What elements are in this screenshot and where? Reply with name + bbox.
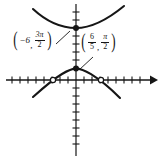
- lower-vertex-point: [73, 66, 79, 72]
- label-right-x-fraction: 6 5: [87, 33, 97, 51]
- label-left-y-numerator: 3π: [35, 31, 45, 39]
- label-left-y-denominator: 2: [37, 41, 43, 49]
- label-left-comma: ,: [30, 41, 33, 50]
- label-left-x-value: −6: [19, 36, 30, 45]
- label-left-y-fraction: 3π 2: [34, 31, 46, 49]
- label-left-close-paren: ): [47, 31, 51, 49]
- label-right-y-fraction: π 2: [100, 33, 110, 51]
- point-label-right: ( 6 5 , π 2 ): [80, 33, 117, 51]
- leader-line-right: [79, 57, 93, 70]
- point-label-left: ( −6 , 3π 2 ): [12, 31, 53, 49]
- graph-figure: ( −6 , 3π 2 ) ( 6 5 , π 2: [0, 0, 162, 161]
- label-right-x-denominator: 5: [89, 43, 95, 51]
- left-x-intercept-point: [50, 77, 55, 82]
- label-right-y-denominator: 2: [102, 43, 108, 51]
- upper-branch-curve: [33, 6, 124, 28]
- label-right-comma: ,: [97, 43, 100, 52]
- label-right-close-paren: ): [112, 33, 116, 51]
- plot-canvas: [0, 0, 162, 161]
- label-right-y-numerator: π: [102, 33, 108, 41]
- upper-vertex-point: [73, 25, 79, 31]
- label-left-open-paren: (: [13, 31, 17, 49]
- label-right-open-paren: (: [81, 33, 85, 51]
- right-x-intercept-point: [98, 77, 103, 82]
- label-right-x-numerator: 6: [89, 33, 95, 41]
- x-axis-arrow-icon: [150, 76, 158, 85]
- leader-line-left: [56, 31, 70, 44]
